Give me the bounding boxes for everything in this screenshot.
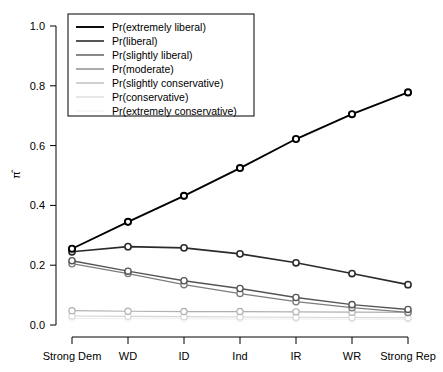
data-point bbox=[349, 111, 355, 117]
data-point bbox=[181, 278, 187, 284]
data-point bbox=[181, 193, 187, 199]
data-point bbox=[405, 282, 411, 288]
x-tick-label: Strong Rep bbox=[380, 350, 436, 362]
x-axis: Strong DemWDIDIndIRWRStrong Rep bbox=[43, 337, 436, 362]
x-tick-label: WR bbox=[343, 350, 361, 362]
x-tick-label: ID bbox=[179, 350, 190, 362]
y-tick-label: 0.6 bbox=[30, 140, 45, 152]
data-point bbox=[405, 89, 411, 95]
data-point bbox=[293, 136, 299, 142]
data-point bbox=[293, 294, 299, 300]
data-point bbox=[237, 251, 243, 257]
data-point bbox=[405, 306, 411, 312]
data-point bbox=[69, 258, 75, 264]
y-tick-label: 0.2 bbox=[30, 259, 45, 271]
data-point bbox=[181, 245, 187, 251]
line-chart: 0.00.20.40.60.81.0 Strong DemWDIDIndIRWR… bbox=[0, 0, 443, 372]
series-layer bbox=[69, 89, 411, 322]
data-point bbox=[181, 308, 187, 314]
legend-item-label: Pr(moderate) bbox=[112, 63, 174, 75]
legend-item-label: Pr(slightly liberal) bbox=[112, 49, 193, 61]
y-axis: 0.00.20.40.60.81.0 bbox=[30, 20, 56, 331]
x-tick-label: IR bbox=[291, 350, 302, 362]
legend-item-label: Pr(extremely conservative) bbox=[112, 105, 237, 117]
data-point bbox=[349, 270, 355, 276]
y-tick-label: 0.4 bbox=[30, 199, 45, 211]
y-tick-label: 0.8 bbox=[30, 80, 45, 92]
legend-item-label: Pr(extremely liberal) bbox=[112, 21, 206, 33]
x-tick-label: Strong Dem bbox=[43, 350, 102, 362]
data-point bbox=[237, 285, 243, 291]
legend-item-label: Pr(conservative) bbox=[112, 91, 188, 103]
x-tick-label: WD bbox=[119, 350, 137, 362]
legend-box: Pr(extremely liberal)Pr(liberal)Pr(sligh… bbox=[68, 14, 254, 117]
y-tick-label: 0.0 bbox=[30, 319, 45, 331]
series-pr-slightly-liberal- bbox=[69, 258, 411, 313]
y-axis-label: π̂ bbox=[10, 169, 22, 179]
y-tick-label: 1.0 bbox=[30, 20, 45, 32]
data-point bbox=[237, 165, 243, 171]
data-point bbox=[125, 308, 131, 314]
data-point bbox=[293, 260, 299, 266]
x-tick-label: Ind bbox=[232, 350, 247, 362]
data-point bbox=[293, 309, 299, 315]
data-point bbox=[69, 246, 75, 252]
data-point bbox=[69, 308, 75, 314]
series-pr-liberal- bbox=[69, 244, 411, 288]
legend-item-label: Pr(liberal) bbox=[112, 35, 158, 47]
data-point bbox=[237, 308, 243, 314]
data-point bbox=[125, 268, 131, 274]
data-point bbox=[125, 219, 131, 225]
chart-container: 0.00.20.40.60.81.0 Strong DemWDIDIndIRWR… bbox=[0, 0, 443, 372]
data-point bbox=[349, 302, 355, 308]
data-point bbox=[125, 244, 131, 250]
legend-item-label: Pr(slightly conservative) bbox=[112, 77, 223, 89]
